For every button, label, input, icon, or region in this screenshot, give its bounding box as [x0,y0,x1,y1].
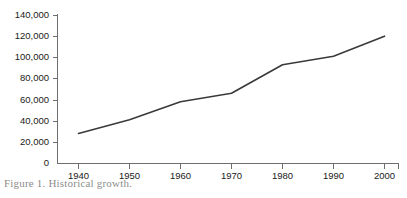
figure-root: 140,000 120,000 100,000 80,000 60,000 40… [0,0,407,198]
x-tick-label-1940: 1940 [68,170,89,180]
y-tick-label-140000: 140,000 [15,9,49,20]
y-tick-label-0: 0 [44,157,49,168]
y-tick-label-100000: 100,000 [15,51,49,62]
y-tick-label-60000: 60,000 [20,94,49,105]
x-axis: 1940 1950 1960 1970 1980 1990 2000 [57,164,399,181]
y-axis: 140,000 120,000 100,000 80,000 60,000 40… [15,9,58,168]
y-tick-label-120000: 120,000 [15,30,49,41]
x-tick-label-1970: 1970 [221,170,242,180]
chart-canvas: 140,000 120,000 100,000 80,000 60,000 40… [0,0,407,180]
y-tick-label-20000: 20,000 [20,136,49,147]
figure-caption: Figure 1. Historical growth. [0,180,407,198]
x-tick-label-1980: 1980 [272,170,293,180]
x-tick-label-1960: 1960 [170,170,191,180]
line-chart: 140,000 120,000 100,000 80,000 60,000 40… [0,0,407,180]
x-tick-label-1990: 1990 [323,170,344,180]
x-tick-label-1950: 1950 [119,170,140,180]
y-tick-label-80000: 80,000 [20,72,49,83]
y-tick-label-40000: 40,000 [20,115,49,126]
figure-caption-text: Figure 1. Historical growth. [4,180,132,189]
data-series-line [79,36,385,133]
x-tick-label-2000: 2000 [374,170,395,180]
